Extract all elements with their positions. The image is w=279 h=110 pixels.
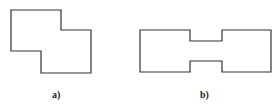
- shape-a-polygon: [11, 10, 91, 73]
- figure-a-label: a): [52, 89, 60, 100]
- diagram-canvas: [0, 0, 279, 110]
- shape-b-polygon: [140, 30, 271, 72]
- figure-b-label: b): [200, 89, 209, 100]
